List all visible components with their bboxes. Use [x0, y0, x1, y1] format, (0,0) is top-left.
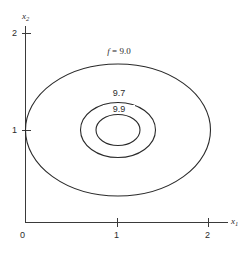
- contour-ellipse-inner: [96, 115, 140, 146]
- contour-ellipse-outer: [26, 64, 211, 196]
- y-tick-label-2: 2: [12, 29, 17, 38]
- contour-plot-figure: 0 1 2 1 2 x1 x2 f = 9.0 9.7 9.9: [0, 0, 251, 254]
- plot-canvas: [0, 0, 251, 254]
- y-axis-label-subscript: 2: [26, 15, 29, 22]
- x-axis-label-subscript: 1: [235, 220, 238, 227]
- contour-label-outer-value: 9.0: [119, 46, 130, 56]
- contour-label-outer: f = 9.0: [98, 47, 140, 56]
- x-tick-label-1: 1: [114, 231, 119, 240]
- y-axis-label: x2: [22, 12, 29, 21]
- contour-label-middle: 9.7: [103, 89, 135, 98]
- contour-label-inner: 9.9: [103, 105, 135, 114]
- contour-label-outer-symbol: f: [107, 46, 110, 56]
- contour-label-outer-equals: =: [112, 46, 117, 56]
- x-tick-label-0: 0: [20, 231, 25, 240]
- x-axis-label: x1: [231, 217, 238, 226]
- y-tick-label-1: 1: [12, 126, 17, 135]
- x-tick-label-2: 2: [205, 231, 210, 240]
